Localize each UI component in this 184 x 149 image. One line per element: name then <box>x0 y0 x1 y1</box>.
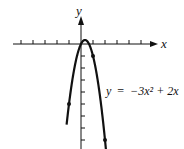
data-point <box>67 102 71 106</box>
data-point <box>91 54 95 58</box>
equation-lhs: y <box>106 84 111 98</box>
equation-label: y = −3x² + 2x <box>106 84 179 99</box>
x-axis-label: x <box>161 36 167 52</box>
parabola-curve <box>67 40 106 149</box>
y-axis-label: y <box>76 3 82 19</box>
equation-rhs: −3x² + 2x <box>130 84 178 98</box>
data-point <box>103 138 107 142</box>
equation-equals: = <box>117 84 124 98</box>
parabola-graph <box>0 0 184 149</box>
x-axis-arrow-icon <box>150 41 158 47</box>
